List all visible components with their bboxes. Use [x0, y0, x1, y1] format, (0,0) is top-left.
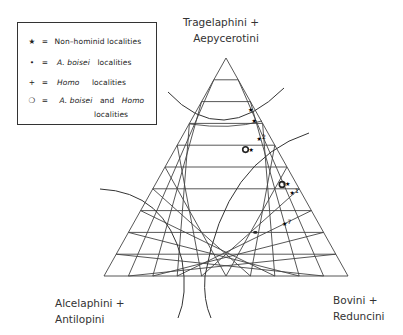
boundary-curve-top: [168, 88, 284, 120]
vertex-label-top-line2: Aepycerotini: [183, 30, 259, 46]
star-marker: ★: [249, 146, 254, 153]
legend-text: and: [100, 96, 114, 105]
data-point-star: ★: [248, 106, 253, 113]
plus-icon: +: [26, 78, 38, 87]
star-marker: ★: [285, 180, 290, 187]
grid-line-parallel-right: [141, 211, 275, 276]
point-label: 1: [295, 187, 299, 194]
data-point-star: ★1: [289, 187, 299, 196]
vertex-label-left-line1: Alcelaphini +: [55, 295, 125, 311]
star-marker: ★: [248, 106, 253, 113]
legend: ★= Non–hominid localities •= A. boisei l…: [17, 22, 157, 125]
legend-taxon: A. boisei: [59, 96, 92, 105]
data-point-dot: [253, 231, 257, 234]
grid-line-parallel-right: [165, 167, 226, 276]
legend-item-boisei-and-homo: ❍= A. boisei and Homo: [26, 96, 144, 105]
circle-icon: ❍: [26, 96, 38, 105]
legend-item-non-hominid: ★= Non–hominid localities: [26, 37, 141, 46]
circle-marker: [243, 147, 249, 153]
dot-marker: [253, 231, 257, 234]
legend-item-homo: += Homo localities: [26, 78, 126, 87]
vertex-label-right-line2: Reduncini: [333, 308, 385, 324]
legend-text: Non–hominid localities: [54, 37, 141, 46]
dot-icon: •: [26, 58, 38, 67]
legend-taxon: A. boisei: [57, 58, 90, 67]
legend-taxon: Homo: [57, 78, 80, 87]
vertex-label-right: Bovini + Reduncini: [333, 292, 385, 324]
legend-text: localities: [97, 58, 131, 67]
legend-text: localities: [92, 78, 126, 87]
legend-taxon-2: Homo: [122, 96, 145, 105]
star-marker: ★: [252, 117, 257, 124]
point-label: 2: [262, 133, 266, 140]
legend-item-boisei: •= A. boisei localities: [26, 58, 132, 67]
legend-text: localities: [94, 110, 128, 119]
data-point-circle: ★: [279, 180, 290, 187]
data-point-star: ★: [252, 117, 257, 124]
vertex-label-top-line1: Tragelaphini +: [183, 14, 259, 30]
data-point-star: ★7: [282, 218, 292, 227]
grid-line-parallel-right: [116, 254, 323, 276]
vertex-label-left: Alcelaphini + Antilopini: [55, 295, 125, 327]
vertex-label-left-line2: Antilopini: [55, 311, 125, 327]
star-icon: ★: [26, 37, 38, 46]
legend-item-boisei-and-homo-cont: localities: [94, 110, 128, 119]
vertex-label-right-line1: Bovini +: [333, 292, 385, 308]
vertex-label-top: Tragelaphini + Aepycerotini: [183, 14, 259, 46]
data-point-circle: ★: [243, 146, 254, 153]
boundary-curve-right: [205, 133, 309, 318]
point-label: 7: [288, 218, 292, 225]
